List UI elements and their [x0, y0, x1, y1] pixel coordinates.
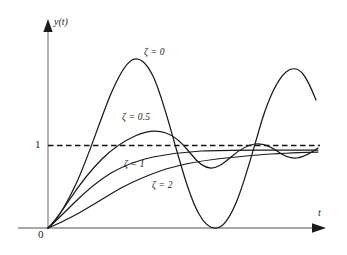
- curve-label-zeta-1: ζ = 1: [124, 160, 145, 170]
- curve-label-zeta-2: ζ = 2: [152, 181, 173, 191]
- y-axis-arrowhead: [43, 19, 52, 32]
- curve-label-zeta-0: ζ = 0: [144, 48, 165, 58]
- y-tick-label-1: 1: [35, 139, 41, 150]
- y-axis-label: y(t): [54, 17, 68, 27]
- curve-zeta-1: [48, 150, 318, 228]
- figure-step-response: y(t) t 1 0 ζ = 0 ζ = 0.5 ζ = 1 ζ = 2: [0, 0, 347, 255]
- origin-label: 0: [38, 229, 44, 240]
- plot-canvas: [0, 0, 347, 255]
- x-axis-arrowhead: [312, 223, 326, 233]
- curve-label-zeta-0p5: ζ = 0.5: [122, 113, 150, 123]
- x-axis-label: t: [318, 208, 321, 218]
